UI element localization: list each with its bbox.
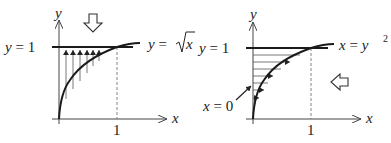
right-slice-arrows: [253, 55, 300, 98]
right-panel: y x 1 y = 1 x = y 2 x = 0: [197, 6, 388, 138]
right-curve-label-exp: 2: [383, 33, 388, 44]
x0-pointer-arrow: [236, 86, 251, 100]
left-arrow-icon: [331, 74, 348, 90]
left-x-axis-label: x: [171, 110, 179, 126]
left-sqrt-curve: [59, 43, 140, 119]
right-curve-label: x = y: [338, 37, 369, 53]
left-y1-label: y = 1: [3, 39, 35, 55]
left-curve-label-var: x: [185, 36, 193, 52]
right-y-axis-label: y: [248, 6, 257, 22]
left-panel: y x 1 y = 1 y = x: [3, 5, 195, 138]
diagram-canvas: y x 1 y = 1 y = x y x: [0, 0, 391, 143]
left-y-axis-label: y: [53, 5, 62, 21]
left-curve-label: y =: [146, 36, 167, 52]
right-y1-label: y = 1: [197, 40, 229, 56]
down-arrow-icon: [84, 14, 102, 32]
right-x0-label: x = 0: [202, 98, 233, 114]
right-x-tick-label: 1: [307, 122, 315, 138]
left-x-tick-label: 1: [113, 122, 121, 138]
right-x-axis-label: x: [365, 110, 373, 126]
